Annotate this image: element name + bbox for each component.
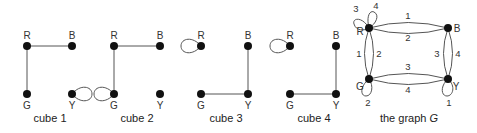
vertex-b (156, 42, 164, 50)
vertex-r (197, 42, 205, 50)
label-b: B (454, 23, 461, 34)
loop-label-g: 2 (365, 97, 370, 108)
vertex-g (365, 75, 373, 83)
vertex-g (197, 90, 205, 98)
label-r: R (197, 30, 204, 41)
vertex-y (244, 90, 252, 98)
vertex-y (68, 90, 76, 98)
label-r: R (23, 30, 30, 41)
label-g: G (23, 100, 31, 111)
label-y: Y (245, 100, 252, 111)
edge-label-by-left: 3 (434, 48, 439, 59)
label-y: Y (333, 100, 340, 111)
caption-cube-2: cube 2 (120, 112, 153, 124)
edge-r-b-1 (369, 23, 448, 29)
label-g: G (356, 81, 364, 92)
vertex-r (110, 42, 118, 50)
caption-symbol: G (429, 112, 438, 124)
edge-g-y-3 (369, 74, 448, 80)
vertex-y (444, 75, 452, 83)
cube-4-graph: R B G Y cube 4 (270, 30, 340, 124)
label-g: G (110, 100, 118, 111)
edge-label-rb-bottom: 2 (405, 32, 410, 43)
edge-b-y-4 (448, 28, 453, 79)
edge-label-rb-top: 1 (405, 10, 410, 21)
vertex-y (332, 90, 340, 98)
label-b: B (333, 30, 340, 41)
vertex-r (23, 42, 31, 50)
cube-2-graph: R B G Y cube 2 (94, 30, 164, 124)
label-g: G (197, 100, 205, 111)
label-b: B (157, 30, 164, 41)
label-y: Y (453, 81, 460, 92)
edge-label-gy-top: 3 (405, 61, 410, 72)
edge-label-by-right: 4 (455, 48, 460, 59)
vertex-b (444, 24, 452, 32)
vertex-b (244, 42, 252, 50)
caption-cube-1: cube 1 (33, 112, 66, 124)
vertex-y (156, 90, 164, 98)
label-b: B (245, 30, 252, 41)
edge-b-y-3 (444, 28, 449, 79)
caption-cube-4: cube 4 (297, 112, 330, 124)
loop-label-y: 1 (446, 97, 451, 108)
label-g: G (286, 100, 294, 111)
caption-graph-g: the graph G (380, 112, 439, 124)
caption-cube-3: cube 3 (209, 112, 242, 124)
edge-label-rg-right: 2 (376, 48, 381, 59)
caption-prefix: the graph (380, 112, 430, 124)
label-b: B (69, 30, 76, 41)
vertex-b (332, 42, 340, 50)
cube-stacking-diagram: R B G Y cube 1 R B G Y cube 2 R B G Y cu… (0, 0, 477, 133)
vertex-g (286, 90, 294, 98)
label-y: Y (157, 100, 164, 111)
edge-r-g-1 (365, 28, 370, 79)
vertex-r (286, 42, 294, 50)
edge-label-rg-left: 1 (356, 48, 361, 59)
loop-label-r-top: 4 (373, 0, 378, 11)
cube-3-graph: R B G Y cube 3 (181, 30, 252, 124)
edge-r-g-2 (369, 28, 374, 79)
vertex-r (365, 24, 373, 32)
edge-label-gy-bottom: 4 (405, 84, 410, 95)
vertex-b (68, 42, 76, 50)
vertex-g (23, 90, 31, 98)
label-y: Y (69, 100, 76, 111)
combined-graph-g: R B G Y 1 2 1 2 3 4 3 4 3 4 2 1 the grap… (353, 0, 460, 124)
cube-1-graph: R B G Y cube 1 (23, 30, 92, 124)
label-r: R (110, 30, 117, 41)
label-r: R (356, 26, 363, 37)
vertex-g (110, 90, 118, 98)
loop-label-r-left: 3 (353, 3, 358, 14)
label-r: R (286, 30, 293, 41)
